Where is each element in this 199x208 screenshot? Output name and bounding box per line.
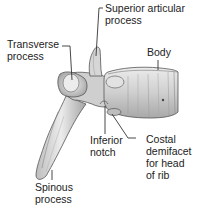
label-body: Body [147,46,171,58]
label-superior-articular-process: Superior articular process [105,2,185,26]
vertebra-diagram: Transverse process Superior articular pr… [0,0,199,208]
vertebral-body-shape [104,67,178,118]
label-spinous-process: Spinous process [35,181,73,205]
label-costal-demifacet: Costal demifacet for head of rib [146,133,192,181]
label-transverse-process: Transverse process [7,38,59,62]
spinous-process-shape [36,96,86,179]
label-inferior-notch: Inferior notch [90,134,123,158]
superior-articular-process-shape [89,47,102,76]
